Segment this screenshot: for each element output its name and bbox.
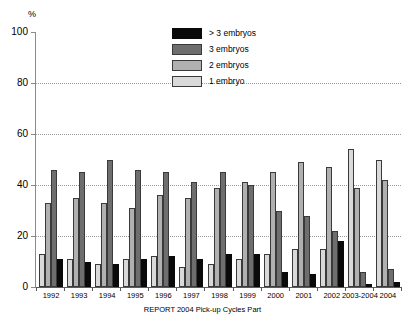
legend-swatch xyxy=(172,44,202,55)
bar-group xyxy=(123,32,147,287)
bar xyxy=(169,256,175,287)
bar-group xyxy=(292,32,316,287)
legend-swatch xyxy=(172,60,202,71)
bar xyxy=(141,259,147,287)
y-axis-tick-label: 40 xyxy=(2,180,28,190)
x-axis-tick-label: 1995 xyxy=(127,291,144,300)
x-axis-tick-mark xyxy=(36,287,37,291)
y-axis-tick-label: 100 xyxy=(2,27,28,37)
x-axis-tick-mark xyxy=(204,287,205,291)
bar xyxy=(197,259,203,287)
legend-label: 1 embryo xyxy=(209,77,244,86)
bar-group xyxy=(39,32,63,287)
x-axis-line xyxy=(35,287,401,288)
x-axis-tick-label: 2002 xyxy=(323,291,340,300)
x-axis-tick-mark xyxy=(233,287,234,291)
bar xyxy=(366,284,372,287)
legend-label: 3 embryos xyxy=(209,45,249,54)
x-axis-tick-mark xyxy=(317,287,318,291)
bar xyxy=(226,254,232,287)
y-axis-tick-label: 0 xyxy=(2,282,28,292)
legend-item: 3 embryos xyxy=(172,44,256,55)
x-axis-tick-label: 1993 xyxy=(71,291,88,300)
x-axis-tick-mark xyxy=(64,287,65,291)
x-axis-tick-label: 1998 xyxy=(211,291,228,300)
bar-group xyxy=(320,32,344,287)
x-axis-tick-mark xyxy=(120,287,121,291)
legend-label: 2 embryos xyxy=(209,61,249,70)
x-axis-tick-label: 1996 xyxy=(155,291,172,300)
legend-swatch xyxy=(172,28,202,39)
bar-group xyxy=(95,32,119,287)
y-axis-unit-label: % xyxy=(28,10,36,19)
legend-item: > 3 embryos xyxy=(172,28,256,39)
bar xyxy=(282,272,288,287)
x-axis-tick-label: 2004 xyxy=(380,291,397,300)
chart-legend: > 3 embryos3 embryos2 embryos1 embryo xyxy=(172,28,256,87)
x-axis-tick-label: 1994 xyxy=(99,291,116,300)
x-axis-tick-mark xyxy=(401,287,402,291)
x-axis-tick-mark xyxy=(148,287,149,291)
chart-caption: REPORT 2004 Pick-up Cycles Part xyxy=(0,305,405,314)
bar xyxy=(57,259,63,287)
x-axis-tick-label: 1992 xyxy=(43,291,60,300)
legend-swatch xyxy=(172,76,202,87)
legend-item: 2 embryos xyxy=(172,60,256,71)
x-axis-tick-label: 1999 xyxy=(239,291,256,300)
x-axis-tick-label: 2003-2004 xyxy=(342,291,378,300)
bar-group xyxy=(348,32,372,287)
bar-group xyxy=(376,32,400,287)
x-axis-tick-mark xyxy=(176,287,177,291)
legend-item: 1 embryo xyxy=(172,76,256,87)
bar-group xyxy=(67,32,91,287)
x-axis-tick-mark xyxy=(92,287,93,291)
x-axis-tick-mark xyxy=(373,287,374,291)
bar xyxy=(85,262,91,288)
bar xyxy=(338,241,344,287)
x-axis-tick-label: 2001 xyxy=(295,291,312,300)
bar xyxy=(254,254,260,287)
bar xyxy=(394,282,400,287)
bar-group xyxy=(264,32,288,287)
x-axis-tick-mark xyxy=(261,287,262,291)
x-axis-tick-mark xyxy=(289,287,290,291)
x-axis-tick-label: 1997 xyxy=(183,291,200,300)
y-axis-tick-label: 60 xyxy=(2,129,28,139)
x-axis-tick-label: 2000 xyxy=(267,291,284,300)
bar xyxy=(113,264,119,287)
y-axis-tick-label: 80 xyxy=(2,78,28,88)
bar xyxy=(310,274,316,287)
legend-label: > 3 embryos xyxy=(209,29,256,38)
bar-chart: % 020406080100 1992199319941995199619971… xyxy=(0,0,405,328)
y-axis-tick-label: 20 xyxy=(2,231,28,241)
